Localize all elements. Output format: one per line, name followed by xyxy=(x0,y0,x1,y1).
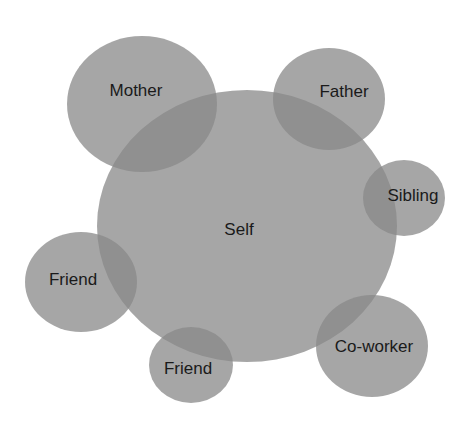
friend-left-label: Friend xyxy=(49,270,97,289)
mother-label: Mother xyxy=(110,81,163,100)
relationship-diagram: Self Mother Father Sibling Friend Friend… xyxy=(0,0,468,430)
father-label: Father xyxy=(319,82,368,101)
friend-bottom-label: Friend xyxy=(164,359,212,378)
mother-circle xyxy=(67,36,217,172)
sibling-label: Sibling xyxy=(387,186,438,205)
coworker-label: Co-worker xyxy=(335,337,414,356)
self-label: Self xyxy=(224,220,254,239)
